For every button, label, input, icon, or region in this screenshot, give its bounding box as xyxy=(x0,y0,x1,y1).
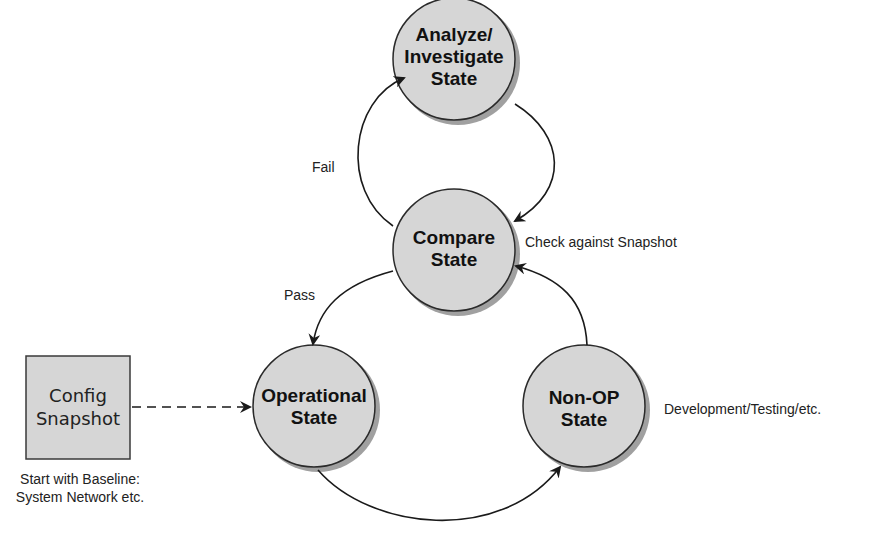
edge-label-pass: Pass xyxy=(284,286,315,304)
state-analyze-label: Analyze/ Investigate State xyxy=(394,24,514,90)
analyze-line1: Analyze/ xyxy=(394,24,514,46)
check-against-snapshot-note: Check against Snapshot xyxy=(525,233,677,251)
baseline-line1: Start with Baseline: xyxy=(0,470,160,488)
analyze-line3: State xyxy=(394,68,514,90)
baseline-line2: System Network etc. xyxy=(0,488,160,506)
compare-line1: Compare xyxy=(394,227,514,249)
state-operational-label: Operational State xyxy=(249,385,379,429)
edge-operational-nonop-arrow xyxy=(318,467,560,520)
baseline-note: Start with Baseline: System Network etc. xyxy=(0,470,160,506)
operational-line2: State xyxy=(249,407,379,429)
config-snapshot-label: Config Snapshot xyxy=(26,384,130,430)
edge-pass-arrow xyxy=(313,271,393,344)
snapshot-line2: Snapshot xyxy=(26,407,130,430)
state-compare-label: Compare State xyxy=(394,227,514,271)
edge-return-arrow xyxy=(515,104,554,221)
compare-line2: State xyxy=(394,249,514,271)
nonop-line1: Non-OP xyxy=(524,387,644,409)
analyze-line2: Investigate xyxy=(394,46,514,68)
operational-line1: Operational xyxy=(249,385,379,407)
state-nonop-label: Non-OP State xyxy=(524,387,644,431)
edge-nonop-compare-arrow xyxy=(516,266,587,345)
nonop-line2: State xyxy=(524,409,644,431)
edge-label-fail: Fail xyxy=(312,158,335,176)
snapshot-line1: Config xyxy=(26,384,130,407)
edge-fail-arrow xyxy=(358,78,404,226)
nonop-note: Development/Testing/etc. xyxy=(664,400,821,418)
